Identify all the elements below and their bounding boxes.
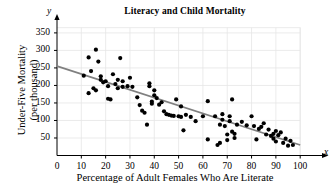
gridlines [57, 28, 300, 156]
data-point [274, 139, 278, 143]
data-point [108, 97, 112, 101]
data-point [259, 125, 263, 129]
data-point [89, 69, 93, 73]
data-point [87, 91, 91, 95]
data-point [286, 144, 290, 148]
data-point [145, 123, 149, 127]
data-point [152, 88, 156, 92]
data-point [128, 76, 132, 80]
data-point [235, 123, 239, 127]
data-point [118, 56, 122, 60]
data-point [99, 74, 103, 78]
data-point [130, 85, 134, 89]
data-point [138, 103, 142, 107]
data-point [94, 88, 98, 92]
data-point [184, 113, 188, 117]
data-point [125, 84, 129, 88]
data-point [116, 78, 120, 82]
x-tick-label: 30 [118, 161, 142, 171]
data-point [142, 111, 146, 115]
y-tick-label: 250 [26, 62, 50, 72]
data-point [252, 124, 256, 128]
y-axis-arrowhead [54, 14, 59, 20]
data-point [220, 118, 224, 122]
x-tick-label: 90 [264, 161, 288, 171]
data-point [159, 100, 163, 104]
data-point [94, 48, 98, 52]
data-point [111, 72, 115, 76]
data-point [281, 141, 285, 145]
x-axis-arrowhead [322, 153, 329, 158]
data-point [225, 138, 229, 142]
data-point [206, 99, 210, 103]
data-point [264, 132, 268, 136]
data-point [106, 84, 110, 88]
data-point [213, 114, 217, 118]
data-point [284, 137, 288, 141]
x-tick-label: 70 [215, 161, 239, 171]
data-point [121, 79, 125, 83]
data-point [240, 120, 244, 124]
data-point [179, 115, 183, 119]
data-point [155, 96, 159, 100]
data-point [232, 136, 236, 140]
x-tick-label: 50 [167, 161, 191, 171]
data-point [135, 95, 139, 99]
data-point [249, 114, 253, 118]
x-tick-label: 0 [45, 161, 69, 171]
y-tick-label: 150 [26, 97, 50, 107]
data-point [220, 112, 224, 116]
data-point [147, 84, 151, 88]
data-point [87, 55, 91, 59]
data-point [189, 115, 193, 119]
data-point [245, 123, 249, 127]
data-point [194, 119, 198, 123]
data-point [121, 85, 125, 89]
y-tick-label: 200 [26, 79, 50, 89]
data-point [82, 74, 86, 78]
axes [54, 14, 328, 158]
data-point [262, 121, 266, 125]
data-point [201, 114, 205, 118]
data-point [174, 97, 178, 101]
data-point [218, 141, 222, 145]
x-tick-label: 60 [191, 161, 215, 171]
data-point [181, 128, 185, 132]
data-point [116, 86, 120, 90]
data-point [254, 137, 258, 141]
x-tick-label: 40 [142, 161, 166, 171]
x-tick-label: 80 [240, 161, 264, 171]
data-point [291, 143, 295, 147]
data-point [218, 123, 222, 127]
x-tick-label: 10 [69, 161, 93, 171]
x-tick-label: 20 [94, 161, 118, 171]
data-point [232, 132, 236, 136]
scatter-plot-figure: Literacy and Child Mortality y x Under-F… [0, 0, 335, 192]
data-point [288, 139, 292, 143]
y-tick-label: 300 [26, 44, 50, 54]
data-point [206, 137, 210, 141]
axis-ticks [54, 33, 300, 159]
x-tick-label: 100 [288, 161, 312, 171]
data-point [104, 79, 108, 83]
y-tick-label: 100 [26, 114, 50, 124]
data-point [172, 114, 176, 118]
data-point [223, 124, 227, 128]
data-point [225, 132, 229, 136]
data-point [113, 82, 117, 86]
y-tick-label: 350 [26, 27, 50, 37]
data-point [228, 114, 232, 118]
data-point [179, 104, 183, 108]
data-point [279, 130, 283, 134]
data-point [150, 102, 154, 106]
data-point [266, 127, 270, 131]
data-point [274, 129, 278, 133]
data-point [228, 119, 232, 123]
data-point [96, 60, 100, 64]
data-point [230, 97, 234, 101]
y-tick-label: 50 [26, 132, 50, 142]
